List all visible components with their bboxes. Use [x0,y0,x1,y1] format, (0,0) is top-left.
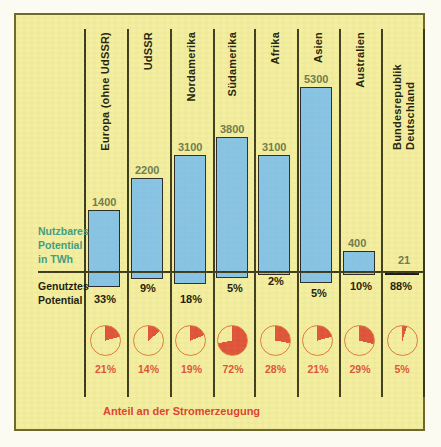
share-pct-europa: 21% [84,363,127,375]
share-pct-brd: 5% [381,363,423,375]
category-label-europa: Europa (ohne UdSSR) [99,32,112,151]
pie-chart-udssr [133,325,164,356]
used-pct-asien: 5% [311,287,327,299]
bar-suedamerika [216,137,248,278]
pie-chart-asien [302,325,333,356]
bar-nordamerika [174,155,206,284]
column-divider [84,29,86,397]
zero-baseline [38,271,424,273]
bar-udssr [131,178,163,279]
used-pct-nordamerika: 18% [180,293,202,305]
bar-value-asien: 5300 [304,73,328,85]
category-label-suedamerika: Südamerika [226,32,239,96]
column-divider [170,29,172,397]
pie-chart-brd [387,325,418,356]
share-pct-afrika: 28% [254,363,297,375]
chart-caption: Anteil an der Stromerzeugung [103,405,260,417]
chart-frame: Europa (ohne UdSSR) UdSSR Nordamerika Sü… [14,13,425,431]
pie-chart-suedamerika [217,325,248,356]
used-pct-australien: 10% [350,280,372,292]
axis-label-nutzbares-potential: Nutzbares Potential in TWh [38,224,89,267]
pie-chart-nordamerika [175,325,206,356]
category-label-brd: Bundesrepublik Deutschland [391,32,417,150]
used-pct-afrika: 2% [268,275,284,287]
share-pct-australien: 29% [339,363,381,375]
bar-value-nordamerika: 3100 [178,141,202,153]
share-pct-udssr: 14% [127,363,170,375]
category-label-udssr: UdSSR [142,32,155,70]
column-divider [381,29,383,397]
bar-value-afrika: 3100 [262,141,286,153]
share-pct-asien: 21% [297,363,339,375]
pie-chart-australien [344,325,375,356]
column-divider [127,29,129,397]
column-divider [423,29,425,397]
bar-europa [88,210,120,287]
bar-value-australien: 400 [348,237,366,249]
bar-value-udssr: 2200 [135,164,159,176]
pie-chart-afrika [260,325,291,356]
column-divider [213,29,215,397]
bar-afrika [258,155,290,275]
column-divider [297,29,299,397]
pie-chart-europa [90,325,121,356]
bar-asien [300,87,332,283]
used-pct-europa: 33% [94,293,116,305]
share-pct-nordamerika: 19% [170,363,213,375]
bar-value-brd: 21 [398,254,410,266]
bar-value-suedamerika: 3800 [220,123,244,135]
share-pct-suedamerika: 72% [212,363,254,375]
used-pct-suedamerika: 5% [227,282,243,294]
category-label-afrika: Afrika [269,32,282,64]
category-label-asien: Asien [312,32,325,63]
chart-page: Europa (ohne UdSSR) UdSSR Nordamerika Sü… [0,0,441,447]
column-divider [254,29,256,397]
category-label-nordamerika: Nordamerika [185,32,198,101]
category-label-australien: Australien [354,32,367,88]
used-pct-brd: 88% [390,280,412,292]
column-divider [339,29,341,397]
bar-value-europa: 1400 [92,196,116,208]
used-pct-udssr: 9% [140,282,156,294]
axis-label-genutztes-potential: Genutztes Potential [38,279,89,307]
